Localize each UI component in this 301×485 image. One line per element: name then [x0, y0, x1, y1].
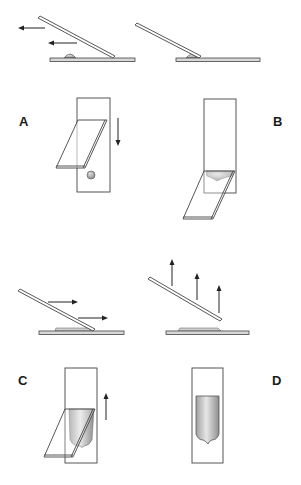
arrow-down-icon	[116, 118, 121, 146]
panel-label-a: A	[19, 114, 29, 129]
arrow-right-icon	[48, 300, 78, 305]
spreader-slide	[18, 289, 95, 331]
panel-label-d: D	[272, 373, 281, 388]
base-slide	[50, 58, 135, 62]
side-view-pullback	[18, 16, 135, 62]
arrow-up-icon	[195, 273, 200, 300]
base-slide	[176, 58, 260, 62]
arrow-left-icon	[18, 26, 45, 31]
panel-label-c: C	[18, 373, 28, 388]
panel-c	[44, 368, 109, 463]
arrow-left-icon	[48, 41, 77, 46]
panel-label-b: B	[273, 114, 282, 129]
arrow-up-icon	[170, 259, 175, 286]
spreader-slide	[38, 16, 115, 58]
side-view-lift	[148, 259, 249, 335]
spreader-slide	[183, 171, 235, 219]
smear-film	[55, 328, 92, 331]
drop	[64, 54, 76, 58]
drop	[87, 171, 95, 179]
arrow-right-icon	[78, 316, 108, 321]
spreader-slide	[135, 23, 201, 58]
side-view-push	[18, 289, 124, 335]
base-slide	[39, 331, 124, 335]
arrow-up-icon	[217, 285, 222, 313]
finished-smear	[196, 396, 219, 444]
smear-diagram: A B	[0, 0, 301, 485]
panel-a	[56, 98, 121, 192]
side-view-contact	[135, 23, 260, 62]
smear-film	[178, 328, 221, 331]
spreader-slide	[148, 277, 222, 321]
base-slide	[166, 331, 249, 335]
arrow-up-icon	[104, 393, 109, 420]
panel-b	[183, 99, 236, 219]
spreader-slide	[56, 120, 107, 168]
panel-d	[192, 368, 223, 463]
